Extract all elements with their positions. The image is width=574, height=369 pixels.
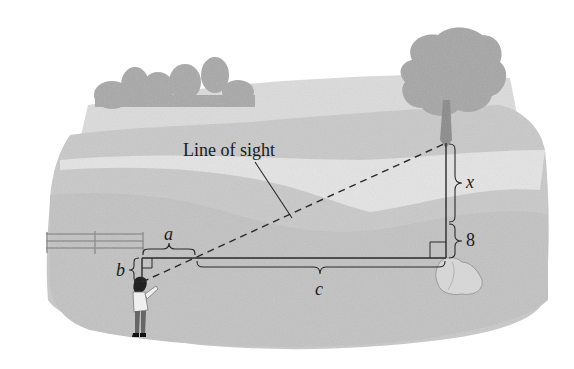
label-b: b (116, 261, 125, 279)
label-x: x (466, 173, 474, 191)
landscape-illustration (0, 0, 574, 369)
label-a: a (164, 225, 173, 243)
distant-trees (94, 57, 255, 109)
person-feet (132, 333, 146, 337)
label-line-of-sight: Line of sight (183, 141, 275, 159)
label-c: c (315, 280, 323, 298)
label-eight: 8 (466, 231, 475, 249)
